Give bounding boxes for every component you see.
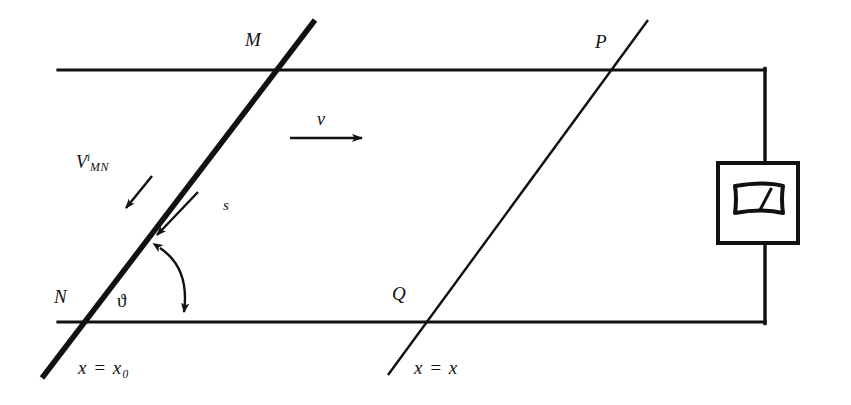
label-displacement-s: s: [223, 198, 229, 213]
label-x-equals-x0: x = x₀: [78, 358, 130, 377]
label-angle-theta: ϑ: [117, 291, 126, 310]
meter-box: [718, 163, 798, 243]
label-emf-vmn: ViMN: [76, 152, 109, 174]
figure-canvas: [0, 0, 851, 405]
label-x-equals-x: x = x: [414, 358, 458, 377]
label-velocity: v: [317, 110, 325, 128]
angle-arc-arrow: [160, 248, 185, 312]
emf-subscript: MN: [90, 160, 109, 174]
label-point-p: P: [595, 32, 607, 51]
label-point-n: N: [54, 287, 67, 306]
emf-symbol: V: [76, 152, 87, 172]
label-point-q: Q: [392, 284, 406, 303]
physics-figure: M N P Q v s ϑ ViMN x = x₀ x = x: [0, 0, 851, 405]
emf-arrow: [126, 176, 152, 208]
rod-mn-line: [42, 20, 315, 378]
label-point-m: M: [245, 30, 261, 49]
